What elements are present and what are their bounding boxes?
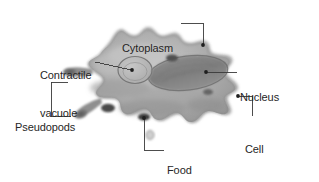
food-vacuole-right [203, 89, 213, 95]
label-contractile-vacuole-line1: Contractile [40, 69, 91, 82]
label-food-vacuole: Food vacuole [167, 139, 204, 181]
label-pseudopods-line1: Pseudopods [15, 121, 75, 134]
anchor-dot-cytoplasm [201, 43, 205, 47]
label-cytoplasm: Cytoplasm [122, 17, 173, 80]
food-vacuole-clear [146, 131, 154, 140]
label-nucleus-line1: Nucleus [240, 91, 279, 104]
label-food-vacuole-line1: Food [167, 164, 204, 177]
label-cytoplasm-line1: Cytoplasm [122, 42, 173, 55]
amoeba-diagram-figure: Cytoplasm Contractile vacuole Nucleus Ps… [0, 0, 319, 181]
anchor-dot-nucleus [204, 70, 208, 74]
label-cell-membrane-line2: membrane [245, 181, 297, 182]
label-cell-membrane-line1: Cell [245, 143, 297, 156]
anchor-dot-food-vacuole [142, 116, 146, 120]
food-vacuole-small-left [101, 104, 115, 112]
label-cell-membrane: Cell membrane [245, 118, 297, 181]
label-pseudopods: Pseudopods [15, 96, 75, 159]
